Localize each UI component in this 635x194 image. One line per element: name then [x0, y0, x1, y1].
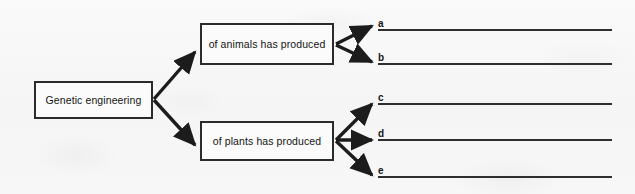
answer-slot-b[interactable]: b	[378, 43, 612, 65]
answer-slot-a[interactable]: a	[378, 9, 612, 31]
answer-rule-e[interactable]	[378, 176, 612, 178]
edge-plants-to-e	[336, 141, 372, 175]
answer-slot-e[interactable]: e	[378, 156, 612, 178]
node-plants-label: of plants has produced	[213, 135, 321, 147]
edge-root-to-animals	[154, 52, 195, 99]
answer-rule-d[interactable]	[378, 139, 612, 141]
node-of-animals-has-produced: of animals has produced	[200, 23, 334, 65]
answer-rule-c[interactable]	[378, 103, 612, 105]
concept-map-diagram: Genetic engineering of animals has produ…	[0, 0, 635, 194]
node-genetic-engineering: Genetic engineering	[34, 81, 153, 119]
answer-label-d: d	[378, 129, 384, 139]
edge-plants-to-c	[336, 104, 372, 140]
answer-slot-d[interactable]: d	[378, 119, 612, 141]
node-animals-label: of animals has produced	[209, 38, 326, 50]
answer-label-a: a	[378, 19, 384, 29]
answer-label-e: e	[378, 166, 384, 176]
edge-animals-to-a	[336, 26, 372, 44]
edge-animals-to-b	[336, 45, 372, 62]
answer-slot-c[interactable]: c	[378, 83, 612, 105]
node-root-label: Genetic engineering	[46, 94, 142, 106]
answer-label-c: c	[378, 93, 384, 103]
answer-label-b: b	[378, 53, 384, 63]
answer-rule-a[interactable]	[378, 29, 612, 31]
answer-rule-b[interactable]	[378, 63, 612, 65]
edge-root-to-plants	[154, 100, 195, 145]
node-of-plants-has-produced: of plants has produced	[200, 121, 334, 161]
